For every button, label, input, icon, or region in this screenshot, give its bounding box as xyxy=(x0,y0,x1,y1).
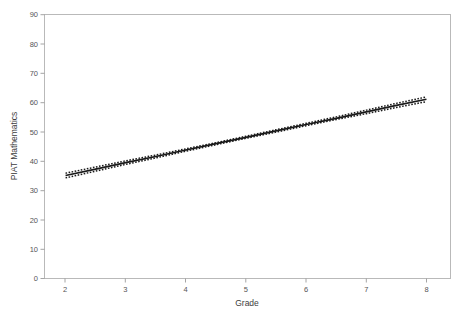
x-tick-label: 4 xyxy=(183,285,187,294)
x-tick-label: 8 xyxy=(424,285,428,294)
plot-background xyxy=(0,0,462,314)
y-tick-label: 10 xyxy=(30,245,38,254)
x-tick-label: 3 xyxy=(123,285,127,294)
x-tick-label: 6 xyxy=(304,285,308,294)
y-axis-title: PIAT Mathematics xyxy=(9,112,19,181)
y-tick-label: 90 xyxy=(30,10,38,19)
x-tick-label: 5 xyxy=(244,285,248,294)
x-axis-title: Grade xyxy=(235,298,259,308)
y-tick-label: 0 xyxy=(34,274,38,283)
y-tick-label: 30 xyxy=(30,186,38,195)
regression-plot: 90 80 70 60 50 40 30 20 10 0 2 3 4 5 xyxy=(0,0,462,314)
x-tick-label: 7 xyxy=(364,285,368,294)
y-tick-label: 70 xyxy=(30,69,38,78)
y-tick-label: 40 xyxy=(30,157,38,166)
y-tick-label: 20 xyxy=(30,216,38,225)
x-tick-label: 2 xyxy=(63,285,67,294)
chart-figure: 90 80 70 60 50 40 30 20 10 0 2 3 4 5 xyxy=(0,0,462,314)
y-tick-label: 80 xyxy=(30,40,38,49)
y-tick-label: 60 xyxy=(30,98,38,107)
y-tick-label: 50 xyxy=(30,128,38,137)
